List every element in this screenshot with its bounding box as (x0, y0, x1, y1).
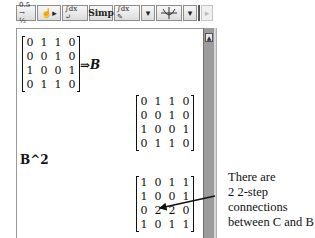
annotation-arrow-icon (0, 0, 315, 238)
